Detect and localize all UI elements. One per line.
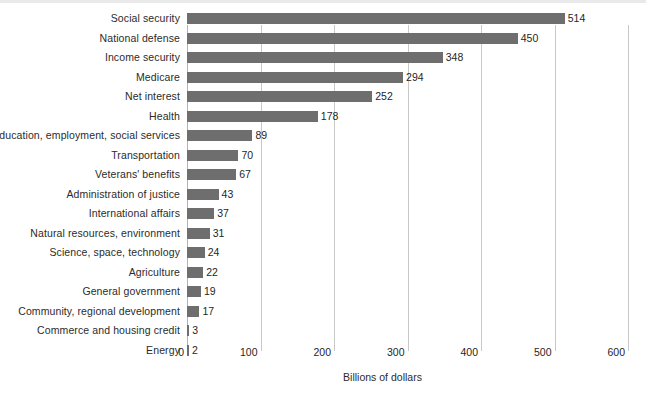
bar-value-label: 37 [217, 206, 229, 221]
bar-value-label: 24 [208, 245, 220, 260]
bar-value-label: 348 [446, 50, 464, 65]
bar-value-label: 252 [375, 89, 393, 104]
bar-value-label: 70 [241, 148, 253, 163]
bar [187, 52, 443, 63]
category-label: Agriculture [0, 265, 180, 280]
bar [187, 111, 318, 122]
category-label: Education, employment, social services [0, 128, 180, 143]
bar-rows: Social security514National defense450Inc… [0, 0, 646, 352]
bar-value-label: 178 [321, 109, 339, 124]
bar [187, 228, 210, 239]
bar-value-label: 43 [222, 187, 234, 202]
bar [187, 150, 238, 161]
bar [187, 208, 214, 219]
category-label: General government [0, 284, 180, 299]
bar-value-label: 19 [204, 284, 216, 299]
category-label: Social security [0, 11, 180, 26]
category-label: Net interest [0, 89, 180, 104]
category-label: Veterans' benefits [0, 167, 180, 182]
bar [187, 325, 189, 336]
bar-value-label: 31 [213, 226, 225, 241]
bar [187, 33, 518, 44]
bar-value-label: 67 [239, 167, 251, 182]
category-label: Energy [0, 343, 180, 358]
bar [187, 130, 252, 141]
bar-value-label: 3 [192, 323, 198, 338]
category-label: Commerce and housing credit [0, 323, 180, 338]
category-label: Transportation [0, 148, 180, 163]
bar-value-label: 22 [206, 265, 218, 280]
category-label: Medicare [0, 70, 180, 85]
bar-row: Energy2 [0, 345, 646, 365]
category-label: Health [0, 109, 180, 124]
bar [187, 247, 205, 258]
x-axis-title: Billions of dollars [0, 371, 646, 383]
bar-value-label: 2 [192, 343, 198, 358]
bar-value-label: 89 [255, 128, 267, 143]
bar [187, 306, 199, 317]
bar-value-label: 17 [202, 304, 214, 319]
bar-chart-figure: Social security514National defense450Inc… [0, 0, 646, 394]
category-label: Community, regional development [0, 304, 180, 319]
bar [187, 345, 189, 356]
bar [187, 267, 203, 278]
bar [187, 189, 219, 200]
bar [187, 286, 201, 297]
category-label: International affairs [0, 206, 180, 221]
bar-value-label: 294 [406, 70, 424, 85]
x-axis-title-text: Billions of dollars [343, 371, 422, 383]
bar [187, 169, 236, 180]
category-label: Administration of justice [0, 187, 180, 202]
category-label: National defense [0, 31, 180, 46]
bar [187, 72, 403, 83]
bar [187, 13, 565, 24]
category-label: Income security [0, 50, 180, 65]
bar [187, 91, 372, 102]
category-label: Natural resources, environment [0, 226, 180, 241]
category-label: Science, space, technology [0, 245, 180, 260]
bar-value-label: 450 [521, 31, 539, 46]
bar-value-label: 514 [568, 11, 586, 26]
